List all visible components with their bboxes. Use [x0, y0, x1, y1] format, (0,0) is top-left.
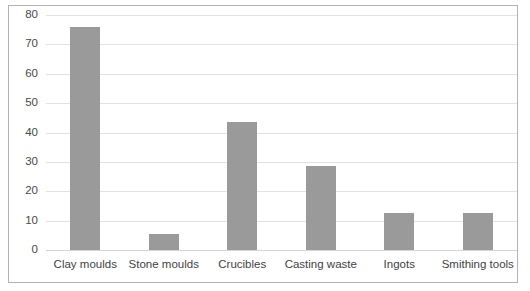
x-axis-category-label: Smithing tools [442, 259, 514, 271]
bar-slot [203, 15, 282, 250]
plot-area: 01020304050607080 [46, 15, 517, 250]
y-axis-tick-label: 80 [4, 9, 38, 21]
bar-slot [125, 15, 204, 250]
bar-slot [439, 15, 518, 250]
bar[interactable] [463, 213, 493, 250]
y-axis-tick-label: 40 [4, 127, 38, 139]
y-axis-tick-label: 0 [4, 244, 38, 256]
y-axis-tick-label: 10 [4, 215, 38, 227]
bar-slot [360, 15, 439, 250]
bar-slot [46, 15, 125, 250]
chart-frame: 01020304050607080 Clay mouldsStone mould… [8, 5, 518, 283]
bar[interactable] [227, 122, 257, 250]
y-axis-tick-label: 30 [4, 156, 38, 168]
bar[interactable] [306, 166, 336, 250]
bar[interactable] [70, 27, 100, 250]
x-axis-category-label: Casting waste [285, 259, 357, 271]
y-axis-tick-label: 20 [4, 186, 38, 198]
y-axis-tick-label: 50 [4, 97, 38, 109]
x-axis-category-label: Ingots [384, 259, 415, 271]
bar-series [46, 15, 517, 250]
gridline [46, 250, 517, 251]
x-axis-category-label: Clay moulds [54, 259, 117, 271]
x-axis-category-label: Crucibles [218, 259, 266, 271]
bar-slot [282, 15, 361, 250]
bar[interactable] [384, 213, 414, 250]
x-axis-category-label: Stone moulds [129, 259, 199, 271]
bar[interactable] [149, 234, 179, 250]
y-axis-tick-label: 60 [4, 68, 38, 80]
y-axis-tick-label: 70 [4, 39, 38, 51]
x-axis-category-labels: Clay mouldsStone mouldsCruciblesCasting … [46, 254, 517, 278]
